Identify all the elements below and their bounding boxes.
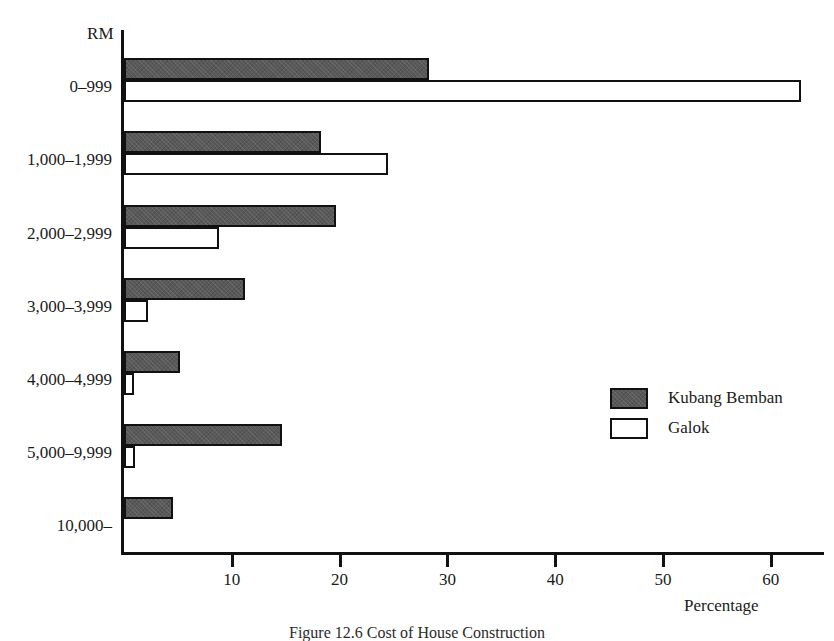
- bar-kubang-bemban: [124, 351, 180, 373]
- category-label: 4,000–4,999: [0, 371, 112, 388]
- x-tick: [231, 555, 234, 567]
- legend-swatch-icon: [610, 418, 648, 439]
- x-tick-label: 10: [207, 570, 257, 590]
- x-tick-label: 20: [315, 570, 365, 590]
- legend-label: Galok: [668, 418, 710, 438]
- x-tick-label: 40: [530, 570, 580, 590]
- bar-galok: [124, 153, 388, 175]
- bar-galok: [124, 227, 219, 249]
- category-label: 0–999: [0, 78, 112, 95]
- bar-kubang-bemban: [124, 58, 429, 80]
- plot-area: 0–9991,000–1,9992,000–2,9993,000–3,9994,…: [124, 30, 824, 554]
- legend-swatch-icon: [610, 388, 648, 409]
- legend-label: Kubang Bemban: [668, 388, 783, 408]
- bar-galok: [124, 373, 134, 395]
- bar-kubang-bemban: [124, 205, 336, 227]
- x-tick-label: 60: [746, 570, 796, 590]
- legend: Kubang Bemban Galok: [610, 383, 783, 443]
- bar-galok: [124, 300, 148, 322]
- bar-kubang-bemban: [124, 278, 245, 300]
- bar-kubang-bemban: [124, 131, 321, 153]
- bar-kubang-bemban: [124, 424, 282, 446]
- category-label: 10,000–: [0, 517, 112, 534]
- x-tick: [554, 555, 557, 567]
- bar-kubang-bemban: [124, 497, 173, 519]
- category-label: 2,000–2,999: [0, 225, 112, 242]
- x-tick: [446, 555, 449, 567]
- x-tick-label: 30: [422, 570, 472, 590]
- figure-caption: Figure 12.6 Cost of House Construction: [0, 624, 834, 641]
- bar-galok: [124, 80, 801, 102]
- bar-galok: [124, 446, 135, 468]
- x-tick-label: 50: [638, 570, 688, 590]
- figure-container: RM 0–9991,000–1,9992,000–2,9993,000–3,99…: [0, 0, 834, 641]
- category-label: 5,000–9,999: [0, 444, 112, 461]
- y-axis-title: RM: [50, 24, 114, 44]
- x-axis-title: Percentage: [684, 596, 759, 616]
- legend-item-galok[interactable]: Galok: [610, 413, 783, 443]
- x-tick: [339, 555, 342, 567]
- category-label: 1,000–1,999: [0, 151, 112, 168]
- x-tick: [662, 555, 665, 567]
- x-tick: [770, 555, 773, 567]
- legend-item-kubang-bemban[interactable]: Kubang Bemban: [610, 383, 783, 413]
- category-label: 3,000–3,999: [0, 298, 112, 315]
